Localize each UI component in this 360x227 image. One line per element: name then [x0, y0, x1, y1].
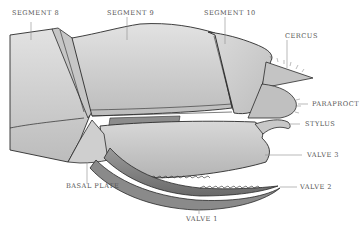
- label-paraproct: PARAPROCT: [312, 101, 359, 108]
- label-stylus: STYLUS: [305, 121, 335, 128]
- label-valve-3: VALVE 3: [307, 152, 339, 159]
- ovipositor-diagram: SEGMENT 8 SEGMENT 9 SEGMENT 10 CERCUS PA…: [0, 0, 360, 227]
- label-basal-plate: BASAL PLATE: [66, 183, 119, 190]
- label-segment-9: SEGMENT 9: [107, 10, 154, 17]
- segment-9-shape: [72, 24, 232, 116]
- label-valve-2: VALVE 2: [300, 184, 332, 191]
- label-segment-8: SEGMENT 8: [12, 10, 59, 17]
- label-segment-10: SEGMENT 10: [204, 10, 256, 17]
- label-valve-1: VALVE 1: [186, 216, 218, 223]
- label-cercus: CERCUS: [285, 33, 318, 40]
